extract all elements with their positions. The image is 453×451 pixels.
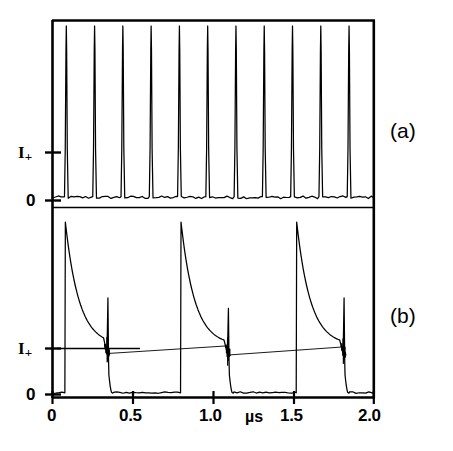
trace-panel-b-ringing (104, 336, 346, 366)
y-label-iplus-panel-b: I+ (18, 340, 32, 359)
trace-panel-a (53, 26, 374, 199)
x-label-0: 0 (47, 407, 56, 424)
y-label-zero-panel-a: 0 (26, 192, 35, 209)
oscilloscope-plot (0, 0, 453, 451)
x-label-0-5: 0.5 (119, 407, 142, 424)
x-axis-unit-label: µs (245, 409, 263, 425)
panel-label-a: (a) (390, 120, 416, 141)
x-label-1-0: 1.0 (199, 407, 222, 424)
x-label-1-5: 1.5 (280, 407, 303, 424)
panel-label-b: (b) (390, 305, 416, 326)
figure-container: I+ 0 I+ 0 0 0.5 1.0 1.5 2.0 µs (a) (b) (0, 0, 453, 451)
plot-frame (52, 20, 375, 398)
y-label-zero-panel-b: 0 (26, 386, 35, 403)
x-label-2-0: 2.0 (358, 407, 381, 424)
trace-panel-b (53, 222, 374, 393)
y-label-iplus-panel-a: I+ (18, 144, 32, 163)
